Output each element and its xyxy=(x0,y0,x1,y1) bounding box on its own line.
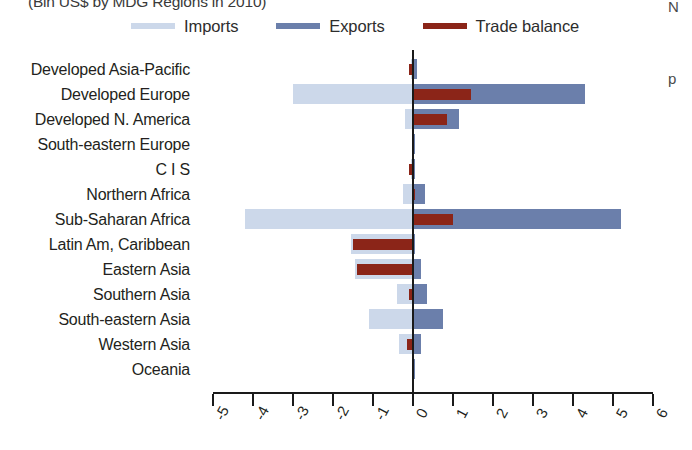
legend-item-exports: Exports xyxy=(276,17,384,36)
bar-group xyxy=(0,282,692,307)
legend-item-imports: Imports xyxy=(131,17,238,36)
x-axis-baseline xyxy=(213,392,653,394)
legend-swatch-trade-balance xyxy=(423,23,467,29)
legend-swatch-exports xyxy=(276,23,320,29)
x-axis-tick xyxy=(372,394,374,406)
bar-imports[interactable] xyxy=(369,309,413,329)
bar-trade-balance[interactable] xyxy=(413,89,471,100)
x-axis-tick xyxy=(532,394,534,406)
x-axis-tick xyxy=(252,394,254,406)
bar-group xyxy=(0,332,692,357)
legend-label-exports: Exports xyxy=(329,17,384,36)
bar-group xyxy=(0,107,692,132)
bar-trade-balance[interactable] xyxy=(353,239,413,250)
bar-group xyxy=(0,257,692,282)
legend-label-imports: Imports xyxy=(184,17,238,36)
bar-trade-balance[interactable] xyxy=(413,214,453,225)
chart-legend: Imports Exports Trade balance xyxy=(131,14,579,38)
x-axis-tick xyxy=(332,394,334,406)
x-axis-tick xyxy=(292,394,294,406)
x-axis-tick xyxy=(412,394,414,406)
x-axis-tick xyxy=(212,394,214,406)
bar-exports[interactable] xyxy=(413,259,421,279)
legend-item-trade-balance: Trade balance xyxy=(423,17,580,36)
page-margin-text-fragment-top: N xyxy=(668,0,692,15)
bar-group xyxy=(0,132,692,157)
x-axis-tick xyxy=(652,394,654,406)
bar-group xyxy=(0,307,692,332)
x-axis: -5-4-3-2-10123456 xyxy=(0,392,692,450)
x-axis-tick xyxy=(572,394,574,406)
zero-reference-line xyxy=(412,50,414,392)
bar-group xyxy=(0,157,692,182)
page-title: (Bln US$ by MDG Regions in 2010) xyxy=(28,0,266,11)
bar-exports[interactable] xyxy=(413,284,427,304)
bar-imports[interactable] xyxy=(293,84,413,104)
legend-label-trade-balance: Trade balance xyxy=(476,17,580,36)
x-axis-tick xyxy=(492,394,494,406)
bar-group xyxy=(0,57,692,82)
bar-group xyxy=(0,357,692,382)
x-axis-tick xyxy=(612,394,614,406)
bars-layer xyxy=(0,45,692,395)
x-axis-tick xyxy=(452,394,454,406)
bar-trade-balance[interactable] xyxy=(357,264,413,275)
bar-group xyxy=(0,232,692,257)
chart-plot-area: Developed Asia-PacificDeveloped EuropeDe… xyxy=(0,45,692,395)
bar-group xyxy=(0,182,692,207)
bar-group xyxy=(0,207,692,232)
bar-trade-balance[interactable] xyxy=(413,114,447,125)
bar-exports[interactable] xyxy=(413,334,421,354)
bar-group xyxy=(0,82,692,107)
legend-swatch-imports xyxy=(131,23,175,29)
bar-exports[interactable] xyxy=(413,309,443,329)
bar-imports[interactable] xyxy=(245,209,413,229)
